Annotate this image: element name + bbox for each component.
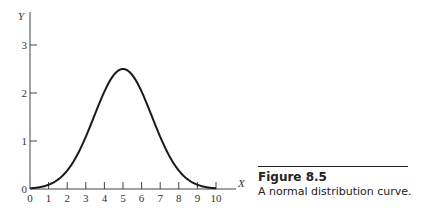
axes [30, 12, 236, 189]
y-tick-label: 3 [22, 39, 28, 51]
figure-caption: Figure 8.5 A normal distribution curve. [258, 166, 408, 199]
y-tick-label: 1 [22, 135, 28, 147]
normal-curve [30, 69, 216, 188]
y-tick-label: 2 [22, 87, 28, 99]
x-tick-label: 8 [176, 192, 182, 204]
x-tick-label: 0 [27, 192, 33, 204]
y-tick-label: 0 [22, 183, 28, 195]
x-tick-label: 5 [120, 192, 126, 204]
x-axis-label: X [237, 177, 246, 189]
x-tick-label: 1 [46, 192, 52, 204]
x-tick-label: 7 [157, 192, 163, 204]
figure-description: A normal distribution curve. [258, 185, 408, 199]
ticks: 0123456789100123 [22, 39, 223, 204]
x-tick-label: 9 [195, 192, 201, 204]
x-tick-label: 3 [83, 192, 89, 204]
x-tick-label: 6 [139, 192, 145, 204]
figure-title: Figure 8.5 [258, 170, 408, 185]
x-tick-label: 4 [102, 192, 108, 204]
y-axis-label: Y [18, 10, 26, 22]
x-tick-label: 10 [211, 192, 223, 204]
x-tick-label: 2 [64, 192, 70, 204]
